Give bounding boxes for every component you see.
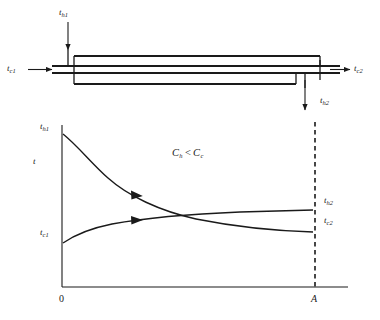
capacity-rate-annotation: Ch<Cc [172, 148, 204, 159]
x-tick-A: A [311, 294, 317, 304]
chart-group [62, 122, 348, 287]
figure-canvas [0, 0, 380, 320]
label-hot-inlet: th1 [59, 8, 68, 17]
curve-label-hot-end: th2 [324, 196, 333, 205]
outer-shell [74, 56, 320, 84]
cold-curve-arrow [131, 216, 143, 225]
label-hot-outlet: th2 [320, 96, 329, 105]
curve-label-hot-start: th1 [40, 122, 49, 131]
schematic-group [28, 22, 350, 110]
label-cold-inlet: tc1 [7, 64, 16, 73]
y-axis-label: t [33, 157, 36, 166]
label-cold-outlet: tc2 [354, 64, 363, 73]
cold-fluid-curve [63, 210, 313, 243]
x-tick-0: 0 [59, 294, 64, 304]
curve-label-cold-end: tc2 [324, 216, 333, 225]
inner-tube [52, 66, 340, 73]
curve-label-cold-start: tc1 [40, 228, 49, 237]
heat-exchanger-figure: th1 tc1 tc2 th2 t 0 A th1 th2 tc1 tc2 Ch… [0, 0, 380, 320]
